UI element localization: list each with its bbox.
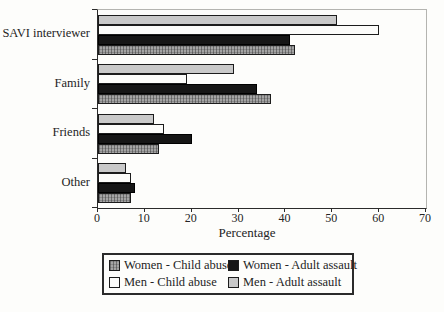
x-tick-label: 40 — [270, 212, 298, 225]
category-label: Other — [0, 175, 90, 190]
bar-women_adult-3 — [98, 183, 135, 193]
bar-men_adult-1 — [98, 64, 234, 74]
bar-women_child-1 — [98, 94, 271, 104]
legend-item-women_child: Women - Child abuse — [109, 258, 232, 272]
bar-men_child-0 — [98, 25, 379, 35]
women_child-swatch-icon — [109, 260, 120, 271]
men_child-swatch-icon — [109, 277, 120, 288]
legend-item-men_child: Men - Child abuse — [109, 275, 217, 289]
bar-women_adult-1 — [98, 84, 257, 94]
x-axis-title: Percentage — [97, 225, 397, 241]
bar-men_adult-2 — [98, 114, 154, 124]
category-label: Friends — [0, 125, 90, 140]
x-tick-label: 0 — [83, 212, 111, 225]
bar-women_adult-0 — [98, 35, 290, 45]
x-tick-label: 60 — [364, 212, 392, 225]
women_adult-swatch-icon — [228, 260, 239, 271]
bar-women_adult-2 — [98, 134, 192, 144]
y-axis-tick — [92, 108, 97, 109]
bar-women_child-0 — [98, 45, 295, 55]
y-axis-tick — [92, 9, 97, 10]
bar-chart-figure: SAVI interviewerFamilyFriendsOther010203… — [0, 0, 444, 312]
legend-label: Men - Child abuse — [124, 275, 217, 290]
legend-item-men_adult: Men - Adult assault — [228, 275, 341, 289]
bar-men_child-3 — [98, 173, 131, 183]
y-axis-tick — [92, 59, 97, 60]
legend-label: Men - Adult assault — [243, 275, 341, 290]
x-tick-label: 30 — [224, 212, 252, 225]
legend-label: Women - Child abuse — [124, 258, 232, 273]
bar-men_child-2 — [98, 124, 164, 134]
category-label: Family — [0, 76, 90, 91]
x-tick-label: 20 — [177, 212, 205, 225]
y-axis-tick — [92, 158, 97, 159]
bar-men_child-1 — [98, 74, 187, 84]
x-tick-label: 70 — [411, 212, 439, 225]
legend-label: Women - Adult assault — [243, 258, 357, 273]
x-tick-label: 50 — [317, 212, 345, 225]
bar-men_adult-3 — [98, 163, 126, 173]
bar-men_adult-0 — [98, 15, 337, 25]
legend-item-women_adult: Women - Adult assault — [228, 258, 357, 272]
plot-area — [97, 9, 427, 209]
bar-women_child-3 — [98, 193, 131, 203]
bar-women_child-2 — [98, 144, 159, 154]
men_adult-swatch-icon — [228, 277, 239, 288]
x-tick-label: 10 — [130, 212, 158, 225]
category-label: SAVI interviewer — [0, 26, 90, 41]
legend: Women - Child abuseWomen - Adult assault… — [102, 253, 354, 295]
